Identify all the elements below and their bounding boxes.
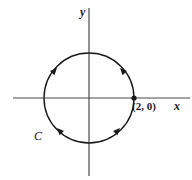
coordinate-plane-graphic	[0, 0, 192, 180]
curve-label-c: C	[34, 130, 42, 142]
figure-canvas: y x C (2, 0)	[0, 0, 192, 180]
x-axis-label: x	[174, 100, 180, 112]
y-axis-label: y	[80, 6, 85, 18]
point-coordinate-label: (2, 0)	[132, 101, 156, 112]
